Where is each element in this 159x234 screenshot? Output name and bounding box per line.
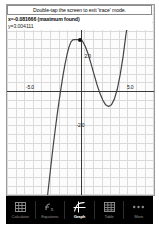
svg-text:x: x [51,206,54,212]
graph-panel[interactable]: -5.0 5.0 2.0 -2.0 [6,4,155,196]
table-icon [104,201,115,213]
trace-banner: Double-tap the screen to exit 'trace' mo… [7,5,152,15]
tab-equations-label: Equations [41,214,58,219]
tab-graph[interactable]: Graph [65,196,94,224]
equations-icon: x [44,201,55,213]
tab-more-label: More [134,214,143,219]
tab-more[interactable]: More [124,196,153,224]
graph-icon [73,201,86,213]
more-icon [132,201,145,213]
tab-calculator-label: Calculator [12,214,29,219]
tab-table[interactable]: Table [95,196,124,224]
trace-point-marker[interactable] [78,38,82,42]
trace-readout: Double-tap the screen to exit 'trace' mo… [7,5,152,30]
tab-table-label: Table [104,214,113,219]
calculator-icon [15,201,26,213]
trace-x-value: x=-0.081666 (maximum found) [7,15,152,22]
calculator-app: -5.0 5.0 2.0 -2.0 Double-tap the screen … [0,0,159,234]
bottom-tab-bar: Calculator x Equations Gr [6,196,153,224]
tab-equations[interactable]: x Equations [36,196,65,224]
function-curve [7,5,154,195]
tab-calculator[interactable]: Calculator [6,196,35,224]
tab-graph-label: Graph [74,214,86,219]
trace-y-value: y=3.004111 [7,23,152,30]
